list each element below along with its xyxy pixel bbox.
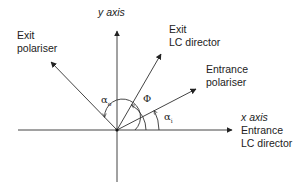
alpha-i-subscript: i	[171, 117, 173, 124]
exit-lc-director-label: Exit LC director	[169, 23, 220, 49]
x-axis-label: x axis Entrance LC director	[241, 111, 292, 150]
alpha-i-label: αi	[164, 111, 173, 124]
alpha-o-label: αo	[101, 94, 111, 107]
phi-symbol: Φ	[143, 93, 151, 104]
phi-label: Φ	[143, 93, 151, 104]
exit-polariser-line2: polariser	[17, 42, 57, 55]
phi-arc-base	[143, 117, 146, 130]
entrance-polariser-label: Entrance polariser	[206, 63, 248, 89]
exit-lc-director-line2: LC director	[169, 36, 220, 49]
x-axis-line2: Entrance	[241, 124, 292, 137]
y-axis-label: y axis	[98, 6, 125, 19]
alpha-o-subscript: o	[108, 100, 112, 107]
alpha-o-symbol: α	[101, 94, 108, 105]
y-axis-label-text: y axis	[98, 6, 125, 19]
exit-polariser-line1: Exit	[17, 29, 57, 42]
exit-lc-director-line1: Exit	[169, 23, 220, 36]
polariser-geometry-diagram	[0, 0, 306, 184]
alpha-i-symbol: α	[164, 111, 171, 122]
entrance-polariser-line2: polariser	[206, 76, 248, 89]
origin-point	[115, 128, 118, 131]
x-axis-line3: LC director	[241, 137, 292, 150]
alpha-i-arc	[154, 111, 159, 130]
exit-polariser-label: Exit polariser	[17, 29, 57, 55]
x-axis-line1: x axis	[241, 111, 292, 124]
entrance-polariser-line1: Entrance	[206, 63, 248, 76]
